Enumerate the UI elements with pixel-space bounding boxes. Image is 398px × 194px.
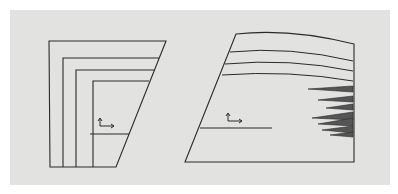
right-spike-7 — [330, 132, 353, 137]
right-spike-2 — [318, 96, 353, 102]
left-inner-layer-2 — [76, 70, 154, 167]
right-spike-1 — [308, 86, 353, 92]
right-spike-3 — [326, 104, 353, 110]
left-axes-icon — [98, 118, 114, 128]
right-layer-curve-1 — [230, 50, 353, 61]
right-axes-icon — [226, 113, 242, 123]
right-layer-curve-2 — [225, 62, 353, 71]
left-outer-trapezoid — [49, 41, 166, 167]
right-outline — [185, 32, 354, 162]
right-spike-6 — [322, 126, 353, 133]
diagram-canvas — [0, 0, 398, 194]
right-layer-curve-3 — [222, 73, 353, 81]
left-inner-layer-1 — [63, 58, 159, 167]
